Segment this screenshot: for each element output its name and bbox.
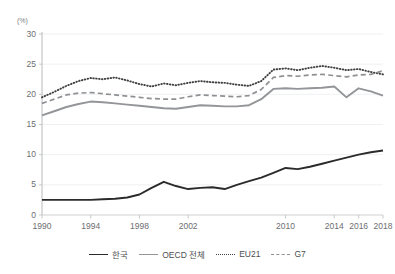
legend-item-label: OECD 전체 [162,248,205,260]
x-axis-tick-label: 2010 [269,222,303,231]
y-axis-tick-label: 15 [14,120,36,129]
legend-item-2[interactable]: EU21 [216,249,260,259]
chart-legend: 한국OECD 전체EU21G7 [0,248,395,260]
x-axis-tick-label: 1994 [74,222,108,231]
x-axis-tick-label: 1990 [25,222,59,231]
legend-item-3[interactable]: G7 [271,249,305,259]
legend-item-1[interactable]: OECD 전체 [139,248,205,260]
series-line-1 [42,86,383,115]
legend-line-swatch-icon [271,250,290,258]
legend-line-swatch-icon [216,250,235,258]
y-axis-tick-label: 0 [14,211,36,220]
legend-item-label: EU21 [239,249,260,259]
legend-item-label: 한국 [112,248,128,260]
plot-area [0,0,395,274]
legend-item-label: G7 [294,249,305,259]
chart-container: (%) 한국OECD 전체EU21G7 05101520253019901994… [0,0,395,274]
y-axis-tick-label: 20 [14,90,36,99]
legend-item-0[interactable]: 한국 [89,248,128,260]
legend-line-swatch-icon [89,250,108,258]
x-axis-tick-label: 2002 [171,222,205,231]
y-axis-tick-label: 25 [14,60,36,69]
y-axis-tick-label: 5 [14,180,36,189]
x-axis-tick-label: 1998 [122,222,156,231]
series-line-0 [42,150,383,199]
y-axis-tick-label: 10 [14,150,36,159]
y-axis-tick-label: 30 [14,30,36,39]
legend-line-swatch-icon [139,250,158,258]
x-axis-tick-label: 2018 [366,222,395,231]
